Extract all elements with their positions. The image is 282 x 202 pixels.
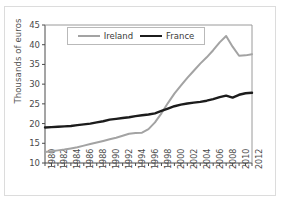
legend-item-france: France (140, 32, 194, 41)
line-chart: Thousands of euros 1015202530354045 1980… (0, 0, 282, 202)
legend-swatch-france (140, 35, 162, 37)
series-line-ireland (45, 36, 252, 152)
series-line-france (45, 93, 252, 128)
legend-label-france: France (166, 32, 194, 41)
legend-swatch-ireland (78, 35, 100, 37)
legend-item-ireland: Ireland (78, 32, 133, 41)
legend-label-ireland: Ireland (104, 32, 133, 41)
chart-legend: Ireland France (67, 27, 205, 45)
